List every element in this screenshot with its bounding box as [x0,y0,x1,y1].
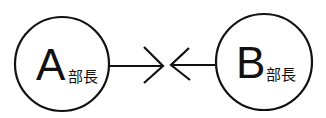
node-b-letter: B [236,38,265,87]
node-b: B 部長 [216,14,312,110]
node-a-title: 部長 [68,68,98,86]
arrow-left [171,48,216,80]
node-b-title: 部長 [266,66,296,84]
node-a: A 部長 [15,17,109,111]
node-a-letter: A [36,40,66,89]
arrow-right [109,47,163,83]
diagram-canvas: A 部長 B 部長 [0,0,326,118]
